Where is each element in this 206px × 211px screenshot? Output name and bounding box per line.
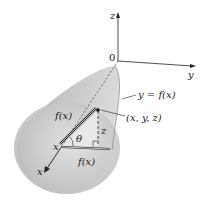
curve-leader xyxy=(122,95,136,99)
z-axis-label: z xyxy=(109,10,116,21)
base-label: f(x) xyxy=(77,156,95,167)
angle-label: θ xyxy=(76,133,82,144)
y-axis-label: y xyxy=(187,69,194,80)
x-position-label: x xyxy=(53,141,59,152)
point-label: (x, y, z) xyxy=(126,112,162,123)
point-marker xyxy=(96,108,100,112)
solid-diagram: z 0 y x y = f(x) (x, y, z) f(x) f(x) z θ… xyxy=(0,0,206,211)
y-axis xyxy=(118,61,192,66)
axes xyxy=(116,12,196,68)
curve-label: y = f(x) xyxy=(137,89,176,100)
height-label: z xyxy=(100,125,107,136)
y-arrow-icon xyxy=(190,64,196,68)
origin-label: 0 xyxy=(109,52,115,63)
z-arrow-icon xyxy=(116,12,120,18)
slant-label: f(x) xyxy=(54,110,72,121)
x-axis-label: x xyxy=(37,166,43,177)
